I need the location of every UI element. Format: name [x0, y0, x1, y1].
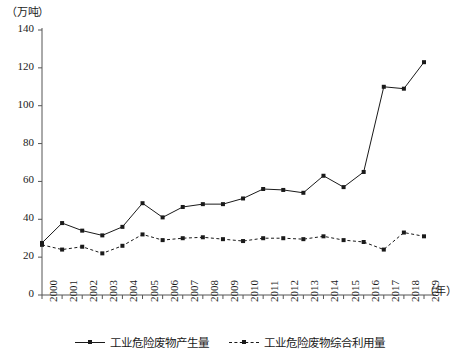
series-marker-2	[181, 236, 185, 240]
series-marker-1	[221, 202, 225, 206]
legend-swatch-dashed-icon	[229, 338, 259, 347]
series-marker-1	[80, 229, 84, 233]
legend-entry[interactable]: 工业危险废物综合利用量	[229, 334, 385, 350]
series-marker-2	[221, 237, 225, 241]
chart-container: （万吨） （年） 020406080100120140 200020012002…	[0, 0, 460, 358]
series-marker-2	[60, 248, 64, 252]
series-line-2	[42, 233, 424, 254]
series-marker-1	[261, 187, 265, 191]
series-marker-2	[301, 237, 305, 241]
legend-entry-label: 工业危险废物产生量	[110, 334, 209, 350]
series-marker-1	[100, 233, 104, 237]
series-marker-1	[402, 87, 406, 91]
legend-entry-label: 工业危险废物综合利用量	[264, 334, 385, 350]
series-marker-1	[161, 215, 165, 219]
legend-swatch-solid-icon	[75, 338, 105, 347]
series-marker-2	[201, 235, 205, 239]
series-marker-1	[241, 196, 245, 200]
series-marker-2	[120, 244, 124, 248]
series-marker-1	[342, 185, 346, 189]
series-marker-2	[382, 248, 386, 252]
plot-area	[0, 0, 460, 358]
series-marker-1	[60, 221, 64, 225]
series-marker-1	[141, 201, 145, 205]
chart-legend: 工业危险废物产生量工业危险废物综合利用量	[0, 334, 460, 350]
series-marker-2	[80, 245, 84, 249]
series-marker-2	[161, 238, 165, 242]
series-marker-1	[321, 174, 325, 178]
series-marker-2	[40, 243, 44, 247]
series-marker-2	[241, 239, 245, 243]
series-marker-2	[261, 236, 265, 240]
series-marker-1	[201, 202, 205, 206]
series-marker-2	[100, 251, 104, 255]
series-marker-2	[281, 236, 285, 240]
series-marker-1	[120, 225, 124, 229]
series-marker-2	[422, 234, 426, 238]
series-marker-1	[281, 188, 285, 192]
series-marker-1	[382, 85, 386, 89]
series-marker-2	[321, 234, 325, 238]
series-marker-2	[342, 238, 346, 242]
series-marker-2	[141, 232, 145, 236]
series-line-1	[42, 62, 424, 243]
legend-entry[interactable]: 工业危险废物产生量	[75, 334, 209, 350]
series-marker-2	[402, 231, 406, 235]
series-marker-2	[362, 240, 366, 244]
series-marker-1	[362, 170, 366, 174]
series-marker-1	[422, 60, 426, 64]
series-marker-1	[301, 191, 305, 195]
series-marker-1	[181, 205, 185, 209]
